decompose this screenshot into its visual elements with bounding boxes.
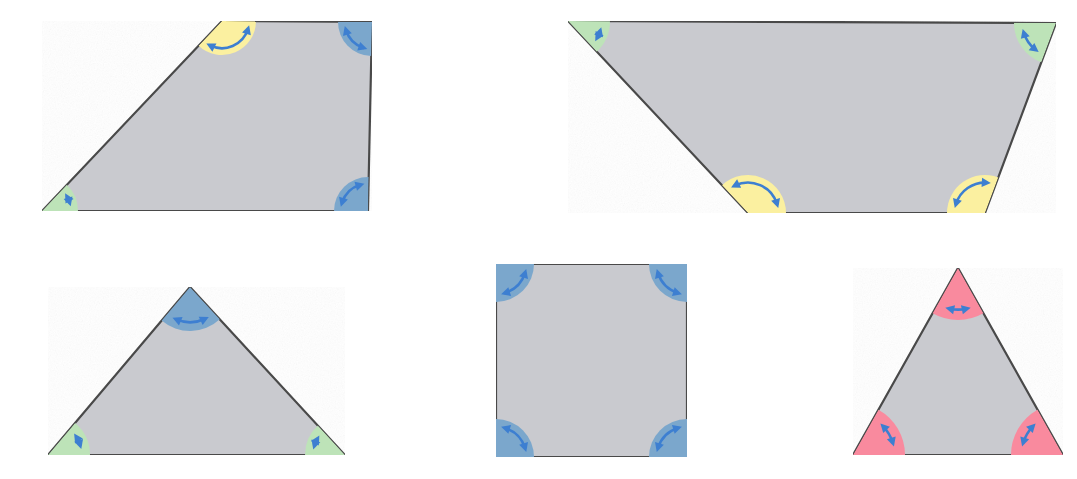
diagram-canvas <box>0 0 1077 479</box>
shape-right-trapezoid[interactable] <box>42 21 372 211</box>
angle-wedge-apex <box>933 268 984 320</box>
shape-square[interactable] <box>496 264 687 457</box>
geometry-figure-svg <box>0 0 1077 479</box>
shape-layer <box>42 21 1063 457</box>
square-body[interactable] <box>496 264 687 457</box>
shape-equilateral-triangle[interactable] <box>853 268 1063 455</box>
shape-inverted-isosceles-trapezoid[interactable] <box>568 21 1056 213</box>
shape-obtuse-isosceles-triangle[interactable] <box>48 287 345 455</box>
